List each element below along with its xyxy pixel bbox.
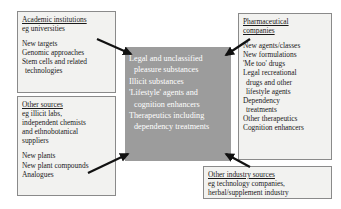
center-line-3: 'Lifestyle' agents and: [129, 87, 228, 98]
box-other-sources-header: Other sources: [22, 100, 111, 109]
center-line-5: Therapeutics including: [129, 110, 228, 121]
center-line-6: dependency treatments: [129, 121, 228, 132]
box-academic-item-2: Stem cells and related: [22, 57, 111, 66]
box-academic-item-3: technologies: [22, 66, 111, 75]
box-pharmaceutical-item-2: 'Me too' drugs: [243, 59, 327, 68]
box-other-industry-line-1: herbal/supplement industry: [208, 188, 327, 197]
box-other-sources-item-2: Analogues: [22, 170, 111, 179]
box-academic-subtitle: eg universities: [22, 24, 111, 33]
box-academic-institutions: Academic institutions eg universities Ne…: [17, 11, 116, 93]
box-other-sources-subtitle-0: eg illicit labs,: [22, 109, 111, 118]
box-other-sources-subtitle-3: suppliers: [22, 136, 111, 145]
box-pharmaceutical-item-9: Cognition enhancers: [243, 123, 327, 132]
box-pharmaceutical-item-4: drugs and other: [243, 78, 327, 87]
center-line-0: Legal and unclassified: [129, 53, 228, 64]
box-pharmaceutical-item-3: Legal recreational: [243, 68, 327, 77]
box-academic-item-1: Genomic approaches: [22, 48, 111, 57]
box-pharmaceutical-item-1: New formulations: [243, 50, 327, 59]
box-other-industry-line-0: eg technology companies,: [208, 179, 327, 188]
center-line-1: pleasure substances: [129, 64, 228, 75]
box-other-industry-sources: Other industry sources eg technology com…: [203, 166, 332, 199]
box-pharmaceutical-item-0: New agents/classes: [243, 41, 327, 50]
box-other-sources-item-0: New plants: [22, 151, 111, 160]
box-pharmaceutical-item-5: lifestyle agents: [243, 87, 327, 96]
box-other-sources-item-1: New plant compounds: [22, 161, 111, 170]
box-pharmaceutical-item-8: Other therapeutics: [243, 114, 327, 123]
box-pharmaceutical-header-0: Pharmaceutical: [243, 17, 327, 26]
box-academic-item-0: New targets: [22, 39, 111, 48]
box-other-sources: Other sources eg illicit labs, independe…: [17, 96, 116, 196]
diagram-canvas: Academic institutions eg universities Ne…: [0, 0, 341, 209]
center-line-4: cognition enhancers: [129, 99, 228, 110]
box-other-sources-subtitle-1: independent chemists: [22, 118, 111, 127]
box-pharmaceutical-item-7: treatments: [243, 105, 327, 114]
box-pharmaceutical-item-6: Dependency: [243, 96, 327, 105]
box-academic-header: Academic institutions: [22, 15, 111, 24]
box-other-sources-subtitle-2: and ethnobotanical: [22, 127, 111, 136]
box-pharmaceutical-header-1: companies: [243, 26, 327, 35]
box-pharmaceutical-companies: Pharmaceutical companies New agents/clas…: [238, 13, 332, 160]
center-line-2: Illicit substances: [129, 76, 228, 87]
box-other-industry-header: Other industry sources: [208, 170, 327, 179]
central-outputs-box: Legal and unclassified pleasure substanc…: [125, 47, 231, 161]
